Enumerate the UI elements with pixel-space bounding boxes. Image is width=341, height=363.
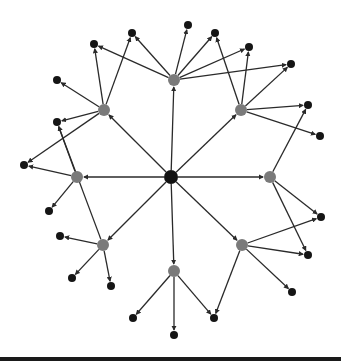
edge-C-H5 [171, 184, 174, 264]
hub-node-H7 [71, 171, 83, 183]
leaf-node-L9 [288, 288, 296, 296]
edge-H6-L14 [75, 249, 98, 274]
leaf-node-L3 [245, 43, 253, 51]
edge-H7-L17 [29, 166, 71, 176]
edge-H1-L4 [180, 65, 286, 80]
leaf-node-L5 [304, 101, 312, 109]
leaf-node-L16 [45, 207, 53, 215]
edge-H2-L6 [247, 112, 316, 135]
edge-H8-L19 [61, 83, 99, 107]
hub-node-H4 [236, 239, 248, 251]
leaf-node-L13 [107, 282, 115, 290]
edge-H6-L15 [65, 237, 97, 244]
edge-H4-L9 [246, 249, 288, 288]
edge-H7-L16 [52, 182, 73, 208]
leaf-node-L12 [129, 314, 137, 322]
leaf-node-L18 [53, 118, 61, 126]
edge-H5-L10 [178, 276, 211, 315]
hub-node-H6 [97, 239, 109, 251]
leaf-node-L15 [56, 232, 64, 240]
edge-C-H4 [176, 182, 237, 240]
edge-H5-L12 [136, 276, 170, 315]
network-diagram [0, 0, 341, 363]
leaf-node-L19 [53, 76, 61, 84]
edge-H4-L10 [216, 251, 240, 314]
edge-H4-L7 [248, 219, 317, 243]
center-node-C [164, 170, 178, 184]
edge-H7-L18 [59, 127, 75, 172]
edge-H6-L13 [104, 251, 110, 281]
edge-H8-L21 [106, 38, 130, 105]
leaf-node-L4 [287, 60, 295, 68]
leaf-node-L11 [170, 331, 178, 339]
leaf-node-L7 [317, 213, 325, 221]
leaf-node-L8 [304, 251, 312, 259]
hub-node-H1 [168, 74, 180, 86]
edge-H4-L8 [248, 246, 303, 254]
graph-canvas [0, 0, 341, 363]
leaf-node-L14 [68, 274, 76, 282]
leaf-node-L6 [316, 132, 324, 140]
leaf-node-L2 [211, 29, 219, 37]
leaf-node-L20 [90, 40, 98, 48]
edge-H2-L5 [247, 105, 303, 109]
edge-H3-L5 [273, 109, 306, 171]
hub-node-H2 [235, 104, 247, 116]
edge-H3-L7 [275, 181, 317, 214]
node-layer [20, 21, 325, 339]
leaf-node-L17 [20, 161, 28, 169]
leaf-node-L21 [128, 29, 136, 37]
edge-H2-L3 [242, 52, 249, 104]
edge-C-H8 [109, 115, 166, 172]
hub-node-H3 [264, 171, 276, 183]
leaf-node-L1 [184, 21, 192, 29]
hub-node-H8 [98, 104, 110, 116]
edge-H8-L18 [62, 111, 98, 120]
edge-C-H2 [176, 115, 236, 172]
hub-node-H5 [168, 265, 180, 277]
edge-C-H1 [171, 87, 174, 170]
edge-H2-L4 [245, 67, 287, 106]
edge-C-H6 [108, 182, 166, 240]
edge-H8-L20 [95, 49, 103, 104]
leaf-node-L10 [210, 314, 218, 322]
bottom-divider [0, 357, 341, 361]
